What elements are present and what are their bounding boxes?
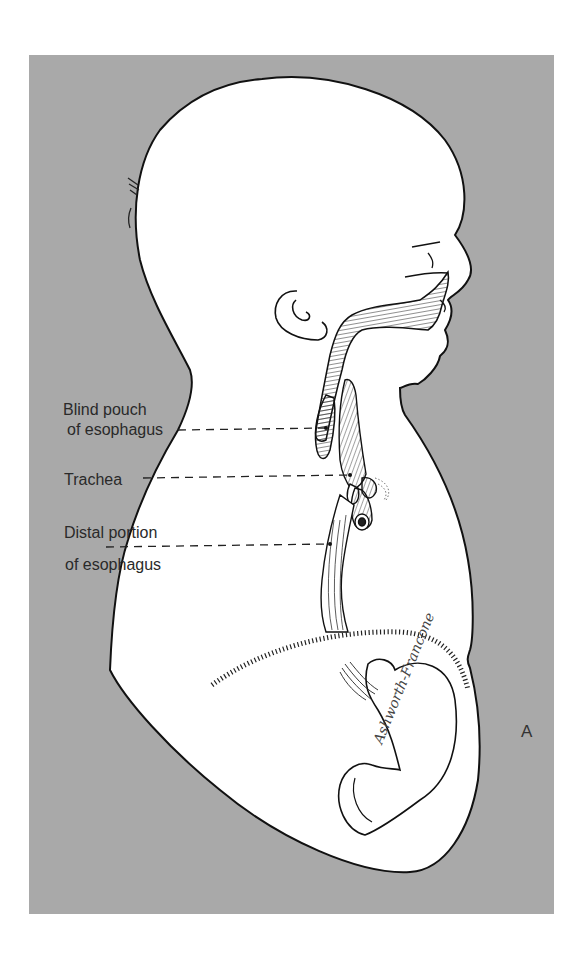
panel-letter-label: A bbox=[521, 722, 532, 742]
label-distal-portion-line2: of esophagus bbox=[65, 557, 161, 573]
label-distal-portion-line1: Distal portion bbox=[64, 525, 157, 541]
label-blind-pouch-line2: of esophagus bbox=[67, 422, 163, 438]
label-trachea: Trachea bbox=[64, 472, 122, 488]
label-blind-pouch-line1: Blind pouch bbox=[63, 402, 147, 418]
